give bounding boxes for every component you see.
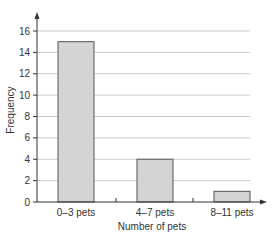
bars (58, 42, 250, 202)
x-tick-label: 0–3 pets (57, 207, 95, 218)
x-axis-title: Number of pets (118, 221, 186, 232)
bar-1 (137, 159, 173, 202)
y-axis-arrow-icon (35, 12, 40, 19)
bar-2 (214, 191, 250, 202)
y-tick-label: 14 (19, 47, 31, 58)
y-ticks: 0246810121416 (19, 26, 37, 208)
y-tick-label: 10 (19, 90, 31, 101)
x-tick-label: 8–11 pets (210, 207, 253, 218)
y-tick-label: 4 (24, 154, 30, 165)
y-axis-title: Frequency (5, 86, 16, 133)
bar-chart: 0246810121416 0–3 pets4–7 pets8–11 pets … (0, 0, 280, 241)
y-tick-label: 12 (19, 68, 31, 79)
y-tick-label: 16 (19, 26, 31, 37)
bar-0 (58, 42, 94, 202)
y-tick-label: 8 (24, 111, 30, 122)
y-tick-label: 0 (24, 197, 30, 208)
x-axis-arrow-icon (260, 200, 267, 205)
y-tick-label: 6 (24, 132, 30, 143)
y-tick-label: 2 (24, 175, 30, 186)
x-tick-label: 4–7 pets (136, 207, 174, 218)
